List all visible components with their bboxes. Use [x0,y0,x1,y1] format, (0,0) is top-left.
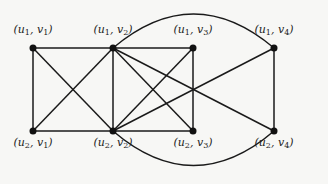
node-u2v1 [30,128,37,135]
node-u2v2 [110,128,117,135]
node-label-u1v1: (u1, v1) [13,24,52,37]
node-u2v4 [271,128,278,135]
node-u1v2 [110,45,117,52]
edges-group [33,48,274,131]
node-u1v1 [30,45,37,52]
node-label-u2v4: (u2, v4) [254,137,293,150]
node-label-u1v3: (u1, v3) [173,24,212,37]
node-label-u1v4: (u1, v4) [254,24,293,37]
node-label-u2v2: (u2, v2) [93,137,132,150]
node-label-u2v1: (u2, v1) [13,137,52,150]
node-label-u2v3: (u2, v3) [173,137,212,150]
node-u2v3 [190,128,197,135]
node-u1v4 [271,45,278,52]
node-u1v3 [190,45,197,52]
graph-diagram: (u1, v1)(u1, v2)(u1, v3)(u1, v4)(u2, v1)… [0,0,328,184]
node-label-u1v2: (u1, v2) [93,24,132,37]
